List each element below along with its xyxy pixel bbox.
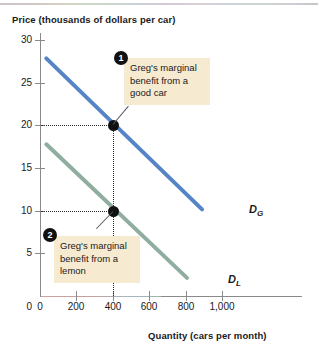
x-axis-title: Quantity (cars per month) bbox=[148, 330, 267, 341]
page-edge-artifact bbox=[0, 3, 318, 5]
x-tick-1000 bbox=[222, 291, 223, 301]
figure-panel: Price (thousands of dollars per car) Qua… bbox=[0, 0, 318, 357]
leader-line-1 bbox=[113, 106, 129, 125]
y-tick-5 bbox=[35, 253, 45, 254]
x-tick-label-1000: 1,000 bbox=[200, 301, 244, 312]
callout-good-car: Greg's marginal benefit from a good car bbox=[124, 58, 210, 105]
y-tick-label-15: 15 bbox=[6, 162, 32, 173]
x-tick-800 bbox=[186, 291, 187, 301]
y-tick-30 bbox=[35, 40, 45, 41]
y-axis-title: Price (thousands of dollars per car) bbox=[12, 14, 176, 25]
curve-label-dg: DG bbox=[249, 203, 263, 218]
callout-lemon: Greg's marginal benefit from a lemon bbox=[54, 236, 140, 283]
curve-label-dl-sub: L bbox=[236, 279, 241, 288]
callout-good-car-text: Greg's marginal benefit from a good car bbox=[130, 62, 197, 98]
y-tick-label-10: 10 bbox=[6, 205, 32, 216]
curve-label-dl: DL bbox=[228, 273, 241, 288]
y-tick-label-30: 30 bbox=[6, 34, 32, 45]
leader-line-2 bbox=[96, 211, 113, 229]
y-tick-label-5: 5 bbox=[6, 247, 32, 258]
y-tick-label-25: 25 bbox=[6, 77, 32, 88]
y-tick-15 bbox=[35, 168, 45, 169]
callout-badge-2-text: 2 bbox=[47, 231, 52, 240]
guide-price-10 bbox=[41, 211, 113, 212]
curve-label-dg-text: D bbox=[249, 203, 257, 215]
x-tick-200 bbox=[76, 291, 77, 301]
x-tick-600 bbox=[149, 291, 150, 301]
curve-label-dg-sub: G bbox=[257, 209, 263, 218]
curve-label-dl-text: D bbox=[228, 273, 236, 285]
callout-badge-2: 2 bbox=[43, 228, 57, 242]
y-axis-line bbox=[40, 33, 41, 297]
y-tick-label-20: 20 bbox=[6, 119, 32, 130]
x-axis-color-artifact bbox=[41, 296, 161, 297]
callout-badge-1-text: 1 bbox=[118, 54, 123, 63]
guide-price-20 bbox=[41, 125, 113, 126]
callout-lemon-text: Greg's marginal benefit from a lemon bbox=[60, 240, 127, 276]
callout-badge-1: 1 bbox=[114, 51, 128, 65]
y-tick-25 bbox=[35, 83, 45, 84]
